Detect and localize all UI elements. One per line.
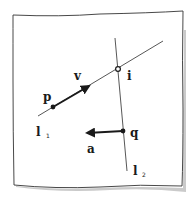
label-p: p: [43, 90, 51, 104]
label-q: q: [130, 126, 139, 140]
point-i: [116, 67, 121, 72]
label-i: i: [127, 69, 132, 83]
label-l1-subscript: 1: [46, 132, 50, 139]
point-p: [51, 105, 56, 110]
paper-sheet: [13, 11, 183, 188]
label-l2: l: [133, 164, 138, 178]
label-l2-subscript: 2: [142, 171, 146, 178]
label-l1: l: [36, 125, 41, 139]
point-q: [121, 129, 126, 134]
label-v: v: [73, 69, 82, 83]
label-a: a: [87, 142, 95, 156]
diagram-canvas: p v i q a l 1 l 2: [0, 0, 193, 197]
